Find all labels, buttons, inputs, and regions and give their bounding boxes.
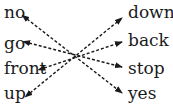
arrow-lines [0, 0, 173, 106]
arrow-front-back [44, 42, 122, 68]
